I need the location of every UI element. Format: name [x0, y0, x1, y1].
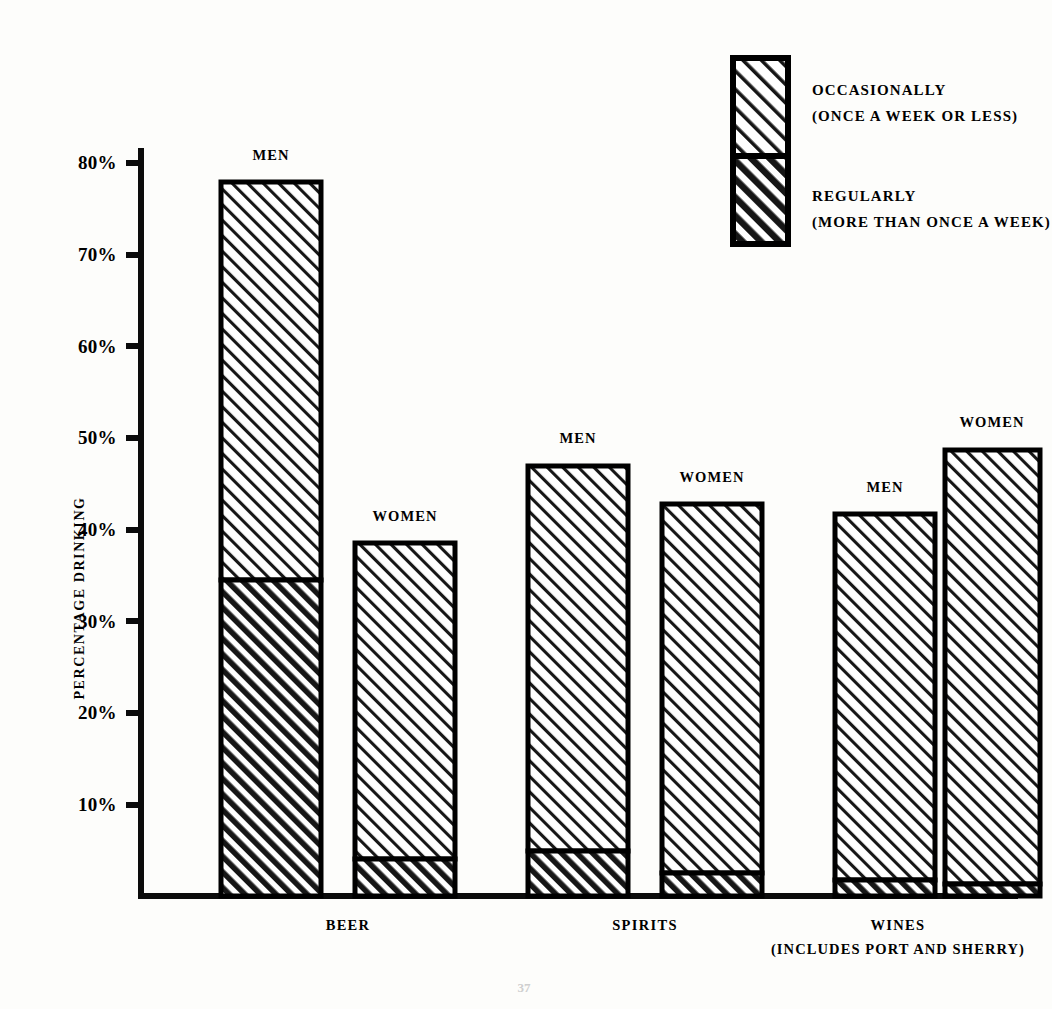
y-tick-label-10: 10%	[78, 794, 117, 816]
bar-label-spirits-women: WOMEN	[652, 469, 772, 486]
category-sublabel-wines: (INCLUDES PORT AND SHERRY)	[748, 941, 1048, 958]
bar-spirits-men	[528, 466, 628, 896]
legend-swatch	[733, 58, 788, 244]
category-label-wines: WINES	[818, 917, 978, 934]
bar-label-wines-women: WOMEN	[932, 414, 1052, 431]
legend-detail-occasionally: (ONCE A WEEK OR LESS)	[812, 108, 1018, 125]
bar-label-spirits-men: MEN	[528, 430, 628, 447]
bar-wines-men	[835, 514, 935, 896]
page-number: 37	[0, 980, 1048, 996]
y-tick-label-60: 60%	[78, 336, 117, 358]
bar-wines-women	[945, 450, 1040, 896]
bar-beer-women	[355, 543, 455, 896]
y-tick-label-80: 80%	[78, 152, 117, 174]
legend-title-occasionally: OCCASIONALLY	[812, 82, 946, 99]
y-axis-title: PERCENTAGE DRINKING	[72, 468, 88, 728]
legend-title-regularly: REGULARLY	[812, 188, 916, 205]
category-label-beer: BEER	[278, 917, 418, 934]
bar-label-beer-men: MEN	[221, 147, 321, 164]
bar-label-wines-men: MEN	[835, 479, 935, 496]
y-tick-label-50: 50%	[78, 427, 117, 449]
bar-beer-men	[221, 182, 321, 896]
y-tick-label-70: 70%	[78, 244, 117, 266]
category-label-spirits: SPIRITS	[575, 917, 715, 934]
bar-label-beer-women: WOMEN	[345, 508, 465, 525]
bar-spirits-women	[662, 504, 762, 896]
legend-detail-regularly: (MORE THAN ONCE A WEEK)	[812, 214, 1051, 231]
